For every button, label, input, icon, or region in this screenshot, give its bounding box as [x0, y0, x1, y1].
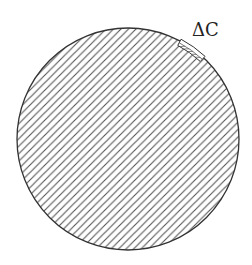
delta-c-band-hatch — [195, 57, 200, 58]
hatched-circle-diagram: ΔC — [0, 0, 252, 265]
delta-c-label: ΔC — [192, 19, 219, 40]
circle-hatch-fill — [17, 28, 239, 250]
